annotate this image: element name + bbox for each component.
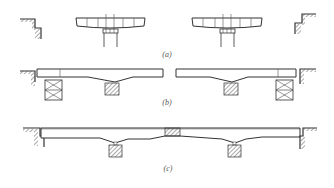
right-abutment-c: [300, 128, 317, 149]
left-abutment-a: [20, 19, 41, 39]
right-cantilever-girder-a: [192, 14, 262, 47]
panel-c: [23, 128, 317, 157]
left-cantilever-girder-a: [76, 14, 145, 47]
right-abutment-a: [295, 14, 316, 34]
panel-b: [20, 69, 316, 100]
caption-c: (c): [164, 164, 173, 173]
right-abutment-b: [300, 69, 316, 84]
right-pier-c: [228, 142, 241, 157]
caption-a: (a): [162, 50, 171, 59]
left-scaffold-b: [45, 80, 62, 100]
caption-b: (b): [162, 98, 171, 107]
left-pier-b: [105, 83, 119, 95]
left-pier-c: [109, 142, 122, 157]
panel-a: [20, 14, 316, 47]
right-scaffold-b: [276, 80, 293, 100]
closure-segment-c: [165, 128, 180, 136]
bridge-diagram: [0, 0, 334, 188]
right-pier-b: [224, 83, 238, 95]
left-abutment-b: [20, 71, 35, 86]
